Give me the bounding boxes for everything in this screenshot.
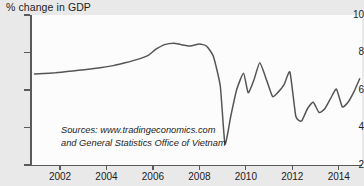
gdp-growth-chart: % change in GDP 108642 20022004200620082… bbox=[0, 0, 364, 186]
source-annotation: Sources: www.tradingeconomics.com and Ge… bbox=[61, 124, 226, 149]
source-line-2: and General Statistics Office of Vietnam bbox=[61, 137, 226, 150]
source-line-1: Sources: www.tradingeconomics.com bbox=[61, 124, 226, 137]
series-layer bbox=[0, 0, 364, 186]
